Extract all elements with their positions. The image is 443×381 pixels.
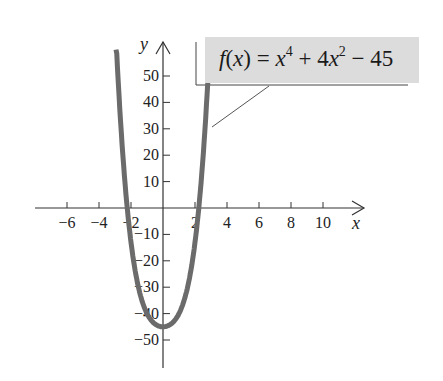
x-tick-label: 6 (255, 214, 263, 231)
y-tick-label: 50 (143, 67, 159, 84)
x-tick-label: 8 (287, 214, 295, 231)
y-tick-label: 30 (143, 120, 159, 137)
x-tick-label: −6 (58, 214, 75, 231)
y-tick-label: −50 (134, 331, 159, 348)
callout-leader-line (212, 86, 269, 127)
y-tick-label: −10 (134, 225, 159, 242)
y-tick-label: 20 (143, 146, 159, 163)
y-tick-label: 10 (143, 173, 159, 190)
x-tick-label: 4 (223, 214, 231, 231)
y-tick-label: 40 (143, 93, 159, 110)
function-equation: f(x) = x4 + 4x2 − 45 (219, 46, 393, 72)
function-curve (116, 50, 208, 327)
x-tick-label: −4 (90, 214, 107, 231)
function-label-box: f(x) = x4 + 4x2 − 45 (205, 37, 419, 83)
y-axis-label: y (138, 34, 148, 54)
x-tick-label: 10 (315, 214, 331, 231)
x-axis-label: x (351, 213, 360, 233)
y-tick-label: −20 (134, 252, 159, 269)
